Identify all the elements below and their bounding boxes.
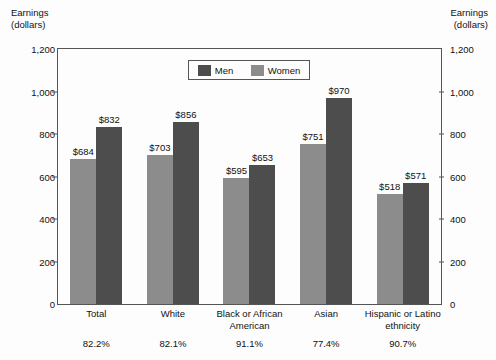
bar-value-label: $856 bbox=[175, 109, 196, 120]
earnings-ratio-percent: 82.1% bbox=[135, 338, 212, 350]
bar-value-label: $703 bbox=[149, 142, 170, 153]
bar-men: $832 bbox=[96, 127, 122, 304]
bar-value-label: $970 bbox=[329, 85, 350, 96]
y-tick-label-left: 0 bbox=[50, 299, 55, 310]
bar-men: $571 bbox=[403, 183, 429, 304]
legend-swatch-men-icon bbox=[198, 65, 211, 76]
category-label: White82.1% bbox=[135, 308, 212, 349]
bar-value-label: $751 bbox=[303, 131, 324, 142]
y-tick-label-right: 1,000 bbox=[450, 86, 474, 97]
bar-group: $595$653 bbox=[211, 49, 288, 304]
bar-women: $518 bbox=[377, 194, 403, 304]
bar-group: $751$970 bbox=[288, 49, 365, 304]
bar-women: $751 bbox=[300, 144, 326, 304]
y-tick-mark-left bbox=[52, 176, 57, 177]
category-name: Black or African American bbox=[211, 308, 288, 331]
legend-label-men: Men bbox=[215, 65, 233, 76]
legend-item-men: Men bbox=[198, 65, 233, 76]
category-label: Total82.2% bbox=[58, 308, 135, 349]
y-tick-label-right: 400 bbox=[450, 214, 466, 225]
earnings-ratio-percent: 82.2% bbox=[58, 338, 135, 350]
left-axis-title: Earnings (dollars) bbox=[11, 7, 49, 31]
right-axis-title: Earnings (dollars) bbox=[451, 7, 489, 31]
y-tick-label-right: 600 bbox=[450, 171, 466, 182]
bars-container: $684$832$703$856$595$653$751$970$518$571 bbox=[58, 49, 441, 304]
bar-value-label: $595 bbox=[226, 165, 247, 176]
y-tick-label-right: 0 bbox=[450, 299, 455, 310]
chart-legend: Men Women bbox=[188, 60, 310, 80]
bar-value-label: $518 bbox=[379, 181, 400, 192]
category-label: Hispanic or Latino ethnicity90.7% bbox=[364, 308, 441, 350]
y-tick-label-right: 1,200 bbox=[450, 44, 474, 55]
bar-women: $684 bbox=[70, 159, 96, 304]
bar-men: $653 bbox=[249, 165, 275, 304]
y-tick-mark-left bbox=[52, 134, 57, 135]
category-name: White bbox=[135, 308, 212, 320]
y-tick-label-left: 1,200 bbox=[31, 44, 55, 55]
bar-value-label: $832 bbox=[99, 114, 120, 125]
legend-swatch-women-icon bbox=[251, 65, 264, 76]
legend-label-women: Women bbox=[268, 65, 301, 76]
bar-value-label: $653 bbox=[252, 152, 273, 163]
y-tick-mark-left bbox=[52, 261, 57, 262]
category-label: Black or African American91.1% bbox=[211, 308, 288, 350]
earnings-ratio-percent: 90.7% bbox=[364, 338, 441, 350]
bar-group: $684$832 bbox=[58, 49, 135, 304]
earnings-ratio-percent: 91.1% bbox=[211, 338, 288, 350]
earnings-bar-chart: Earnings (dollars) Earnings (dollars) 00… bbox=[0, 0, 496, 360]
bar-women: $595 bbox=[223, 178, 249, 304]
bar-group: $703$856 bbox=[135, 49, 212, 304]
category-name: Total bbox=[58, 308, 135, 320]
bar-men: $856 bbox=[173, 122, 199, 304]
y-tick-label-right: 200 bbox=[450, 256, 466, 267]
category-name: Asian bbox=[288, 308, 365, 320]
earnings-ratio-percent: 77.4% bbox=[288, 338, 365, 350]
bar-group: $518$571 bbox=[364, 49, 441, 304]
category-label: Asian77.4% bbox=[288, 308, 365, 349]
y-tick-mark-left bbox=[52, 91, 57, 92]
y-tick-mark-left bbox=[52, 219, 57, 220]
bar-value-label: $684 bbox=[73, 146, 94, 157]
y-tick-label-right: 800 bbox=[450, 129, 466, 140]
legend-item-women: Women bbox=[251, 65, 301, 76]
bar-value-label: $571 bbox=[405, 170, 426, 181]
bar-men: $970 bbox=[326, 98, 352, 304]
category-name: Hispanic or Latino ethnicity bbox=[364, 308, 441, 331]
bar-women: $703 bbox=[147, 155, 173, 304]
